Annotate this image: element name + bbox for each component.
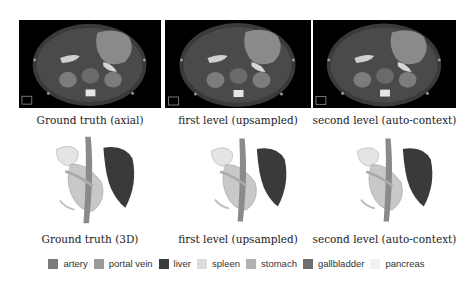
liver-swatch (159, 259, 169, 269)
caption-ground-truth-3d: Ground truth (3D) (19, 233, 161, 245)
legend-label: portal vein (109, 258, 153, 269)
gallbladder-swatch (303, 259, 313, 269)
legend-label: stomach (261, 258, 297, 269)
legend-item-gallbladder: gallbladder (303, 258, 364, 269)
legend-label: liver (174, 258, 191, 269)
render-3d-first-level (194, 132, 290, 228)
legend-label: spleen (212, 258, 240, 269)
legend-item-stomach: stomach (246, 258, 297, 269)
legend-item-spleen: spleen (197, 258, 240, 269)
legend-label: artery (63, 258, 87, 269)
ct-image-first-level (165, 20, 311, 108)
organ-legend: artery portal vein liver spleen stomach … (0, 258, 473, 269)
caption-first-level-axial: first level (upsampled) (165, 114, 311, 126)
caption-second-level-axial: second level (auto-context) (306, 114, 463, 126)
ct-image-second-level (313, 20, 456, 108)
artery-swatch (48, 259, 58, 269)
legend-item-portal-vein: portal vein (94, 258, 153, 269)
spleen-swatch (197, 259, 207, 269)
stomach-swatch (246, 259, 256, 269)
legend-item-liver: liver (159, 258, 191, 269)
legend-label: gallbladder (318, 258, 364, 269)
caption-second-level-3d: second level (auto-context) (306, 233, 463, 245)
render-3d-second-level (340, 132, 436, 228)
legend-item-pancreas: pancreas (370, 258, 424, 269)
caption-ground-truth-axial: Ground truth (axial) (19, 114, 161, 126)
portal-vein-swatch (94, 259, 104, 269)
ct-image-ground-truth (19, 20, 161, 108)
render-3d-ground-truth (38, 132, 138, 228)
caption-first-level-3d: first level (upsampled) (165, 233, 311, 245)
legend-item-artery: artery (48, 258, 87, 269)
legend-label: pancreas (385, 258, 424, 269)
pancreas-swatch (370, 259, 380, 269)
